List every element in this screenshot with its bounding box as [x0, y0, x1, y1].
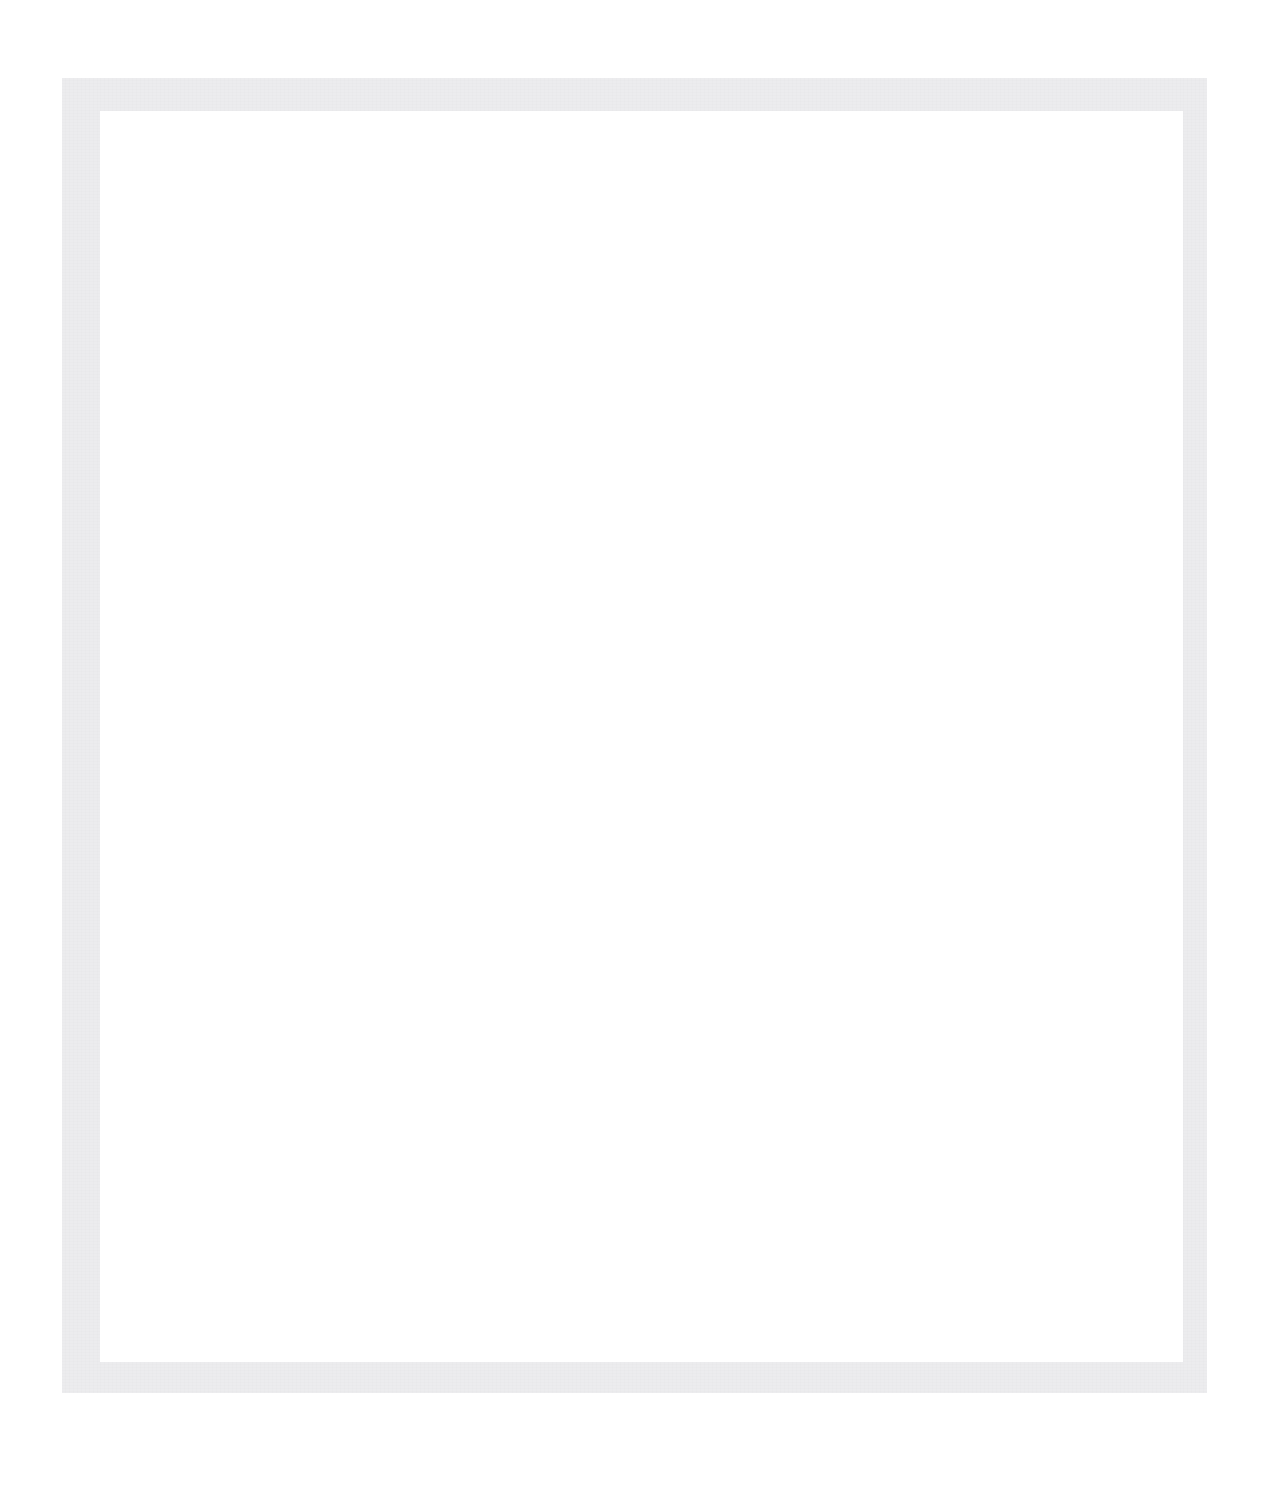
page-canvas	[0, 0, 1282, 1485]
clipped-header-text	[428, 0, 858, 7]
frame-interior-blank-area	[100, 111, 1183, 1362]
